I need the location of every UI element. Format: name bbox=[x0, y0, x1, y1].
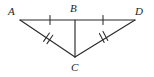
segment-ac bbox=[20, 20, 75, 57]
vertex-label-a: A bbox=[8, 6, 15, 17]
geometry-figure: A B D C bbox=[0, 0, 154, 77]
vertex-label-d: D bbox=[135, 6, 143, 17]
vertex-label-c: C bbox=[71, 62, 78, 73]
segment-cd bbox=[75, 20, 135, 57]
vertex-label-b: B bbox=[70, 3, 77, 14]
